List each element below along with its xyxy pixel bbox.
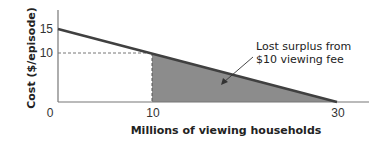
x-tick-30: 30 (331, 106, 345, 120)
y-tick-10: 10 (40, 46, 54, 60)
y-axis-label: Cost ($/episode) (25, 7, 38, 109)
annotation-line2: $10 viewing fee (256, 53, 344, 66)
y-tick-15: 15 (40, 22, 54, 36)
x-tick-10: 10 (146, 106, 160, 120)
chart: 15 10 0 10 30 Cost ($/episode) Millions … (0, 0, 385, 141)
x-tick-0: 0 (47, 106, 54, 120)
x-axis-label: Millions of viewing households (131, 124, 322, 137)
annotation-line1: Lost surplus from (256, 40, 351, 53)
